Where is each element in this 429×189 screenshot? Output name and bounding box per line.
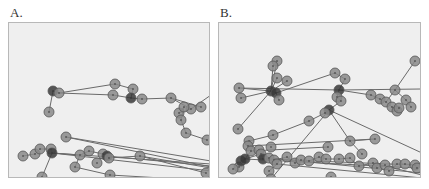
node-center-dot bbox=[286, 80, 288, 82]
node-center-dot bbox=[238, 166, 240, 168]
node-center-dot bbox=[58, 92, 60, 94]
node-center-dot bbox=[349, 140, 351, 142]
node-center-dot bbox=[244, 158, 246, 160]
node-center-dot bbox=[141, 98, 143, 100]
node-center-dot bbox=[276, 60, 278, 62]
edge bbox=[329, 110, 420, 153]
node-center-dot bbox=[374, 138, 376, 140]
node-center-dot bbox=[349, 157, 351, 159]
node-center-dot bbox=[324, 112, 326, 114]
node-center-dot bbox=[112, 94, 114, 96]
node-center-dot bbox=[79, 154, 81, 156]
node-center-dot bbox=[130, 97, 132, 99]
edge bbox=[110, 175, 179, 177]
node-center-dot bbox=[404, 163, 406, 165]
node-center-dot bbox=[384, 164, 386, 166]
edge bbox=[59, 93, 113, 95]
node-center-dot bbox=[262, 158, 264, 160]
node-center-dot bbox=[338, 158, 340, 160]
node-center-dot bbox=[379, 98, 381, 100]
node-center-dot bbox=[237, 128, 239, 130]
node-center-dot bbox=[275, 92, 277, 94]
node-center-dot bbox=[200, 106, 202, 108]
node-center-dot bbox=[294, 162, 296, 164]
node-center-dot bbox=[370, 94, 372, 96]
node-center-dot bbox=[51, 152, 53, 154]
node-center-dot bbox=[410, 106, 412, 108]
panel-label-a: A. bbox=[10, 5, 23, 21]
node-center-dot bbox=[376, 167, 378, 169]
node-center-dot bbox=[318, 156, 320, 158]
node-center-dot bbox=[414, 60, 416, 62]
node-center-dot bbox=[250, 150, 252, 152]
node-center-dot bbox=[39, 148, 41, 150]
node-center-dot bbox=[385, 101, 387, 103]
node-center-dot bbox=[96, 162, 98, 164]
node-center-dot bbox=[65, 136, 67, 138]
node-center-dot bbox=[109, 174, 111, 176]
node-center-dot bbox=[300, 159, 302, 161]
node-center-dot bbox=[205, 172, 207, 174]
node-circle bbox=[201, 168, 209, 177]
node-center-dot bbox=[372, 162, 374, 164]
node-circle bbox=[105, 170, 115, 177]
node-center-dot bbox=[238, 87, 240, 89]
node-center-dot bbox=[139, 155, 141, 157]
node-center-dot bbox=[88, 150, 90, 152]
node-center-dot bbox=[170, 97, 172, 99]
node-center-dot bbox=[180, 119, 182, 121]
panel-label-b: B. bbox=[220, 5, 232, 21]
node-center-dot bbox=[48, 111, 50, 113]
network-graph bbox=[9, 23, 209, 177]
node-center-dot bbox=[190, 108, 192, 110]
node-center-dot bbox=[183, 106, 185, 108]
node-center-dot bbox=[327, 146, 329, 148]
node-center-dot bbox=[396, 163, 398, 165]
node-center-dot bbox=[74, 166, 76, 168]
node-center-dot bbox=[185, 132, 187, 134]
node-circle bbox=[202, 135, 209, 145]
node-center-dot bbox=[334, 72, 336, 74]
edge bbox=[59, 84, 115, 93]
node-center-dot bbox=[325, 158, 327, 160]
node-center-dot bbox=[416, 167, 418, 169]
node-center-dot bbox=[278, 99, 280, 101]
edge bbox=[273, 121, 309, 135]
edge bbox=[339, 89, 420, 90]
node-center-dot bbox=[272, 65, 274, 67]
node-center-dot bbox=[114, 83, 116, 85]
node-center-dot bbox=[338, 89, 340, 91]
node-center-dot bbox=[132, 88, 134, 90]
node-center-dot bbox=[308, 120, 310, 122]
node-center-dot bbox=[240, 97, 242, 99]
node-center-dot bbox=[394, 89, 396, 91]
node-center-dot bbox=[308, 160, 310, 162]
node-center-dot bbox=[52, 90, 54, 92]
node-center-dot bbox=[361, 153, 363, 155]
node-center-dot bbox=[34, 153, 36, 155]
node-center-dot bbox=[276, 163, 278, 165]
node-circle bbox=[412, 163, 420, 173]
node-center-dot bbox=[276, 77, 278, 79]
node-center-dot bbox=[358, 165, 360, 167]
node-center-dot bbox=[108, 157, 110, 159]
node-center-dot bbox=[206, 139, 208, 141]
node-center-dot bbox=[268, 170, 270, 172]
node-center-dot bbox=[270, 146, 272, 148]
node-center-dot bbox=[405, 99, 407, 101]
node-center-dot bbox=[178, 112, 180, 114]
node-center-dot bbox=[398, 107, 400, 109]
node-center-dot bbox=[272, 134, 274, 136]
node-center-dot bbox=[232, 168, 234, 170]
node-center-dot bbox=[344, 78, 346, 80]
node-center-dot bbox=[388, 170, 390, 172]
network-graph bbox=[219, 23, 420, 177]
network-panel-b bbox=[218, 22, 421, 178]
node-center-dot bbox=[22, 155, 24, 157]
node-center-dot bbox=[391, 106, 393, 108]
node-center-dot bbox=[286, 156, 288, 158]
network-panel-a bbox=[8, 22, 210, 178]
nodes bbox=[228, 56, 420, 177]
node-center-dot bbox=[340, 100, 342, 102]
